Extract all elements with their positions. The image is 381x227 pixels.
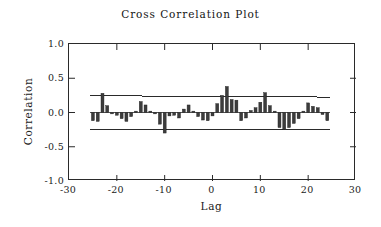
x-tick-label: -30 bbox=[48, 184, 88, 195]
y-tick-label: -0.5 bbox=[30, 140, 64, 151]
plot-area bbox=[68, 43, 355, 180]
cross-correlation-plot-figure: Cross Correlation Plot Correlation -1.0-… bbox=[0, 0, 381, 227]
plot-canvas bbox=[69, 44, 356, 181]
y-tick-label: 0.0 bbox=[30, 106, 64, 117]
x-axis-label: Lag bbox=[68, 200, 355, 212]
y-tick-label: 1.0 bbox=[30, 38, 64, 49]
x-tick-label: 20 bbox=[287, 184, 327, 195]
y-tick-label: 0.5 bbox=[30, 72, 64, 83]
x-tick-label: -10 bbox=[144, 184, 184, 195]
x-tick-label: 30 bbox=[335, 184, 375, 195]
x-tick-label: -20 bbox=[96, 184, 136, 195]
x-axis-tick-labels: -30-20-100102030 bbox=[0, 184, 381, 200]
x-tick-label: 10 bbox=[239, 184, 279, 195]
x-tick-label: 0 bbox=[192, 184, 232, 195]
correlation-bars bbox=[90, 86, 330, 133]
